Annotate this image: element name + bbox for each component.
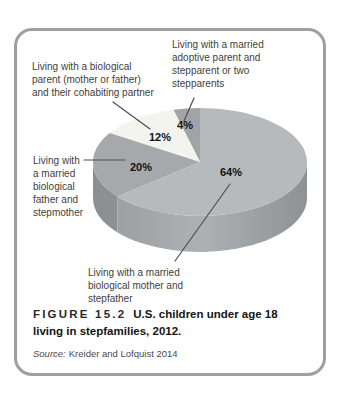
callout-line: a married [33, 167, 83, 180]
pie-percent-label-20: 20% [130, 161, 152, 173]
figure-caption: FIGURE 15.2U.S. children under age 18 li… [33, 306, 305, 340]
pie-percent-label-64: 64% [220, 166, 242, 178]
callout-line: adoptive parent and [172, 51, 264, 64]
callout-line: stepparents [172, 77, 264, 90]
callout-line: stepparent or two [172, 64, 264, 77]
callout-father-stepmother: Living with a married biological father … [33, 154, 83, 219]
figure-number: FIGURE 15.2 [33, 308, 126, 320]
callout-line: and their cohabiting partner [32, 86, 154, 99]
figure-15-2: 4%12%20%64% Living with a married adopti… [0, 0, 337, 395]
callout-line: biological [33, 180, 83, 193]
callout-cohabiting-partner: Living with a biological parent (mother … [32, 60, 154, 99]
pie-percent-label-12: 12% [149, 131, 171, 143]
callout-mother-stepfather: Living with a married biological mother … [88, 266, 183, 305]
figure-source: Source:Kreider and Lofquist 2014 [33, 348, 178, 359]
callout-adoptive-stepparent: Living with a married adoptive parent an… [172, 38, 264, 90]
callout-line: Living with [33, 154, 83, 167]
callout-line: stepfather [88, 292, 183, 305]
callout-line: father and [33, 193, 83, 206]
callout-line: Living with a married [172, 38, 264, 51]
source-text: Kreider and Lofquist 2014 [69, 348, 178, 359]
pie-percent-label-4: 4% [177, 119, 193, 131]
source-label: Source: [33, 348, 66, 359]
callout-line: parent (mother or father) [32, 73, 154, 86]
callout-line: Living with a biological [32, 60, 154, 73]
callout-line: biological mother and [88, 279, 183, 292]
callout-line: stepmother [33, 206, 83, 219]
callout-line: Living with a married [88, 266, 183, 279]
